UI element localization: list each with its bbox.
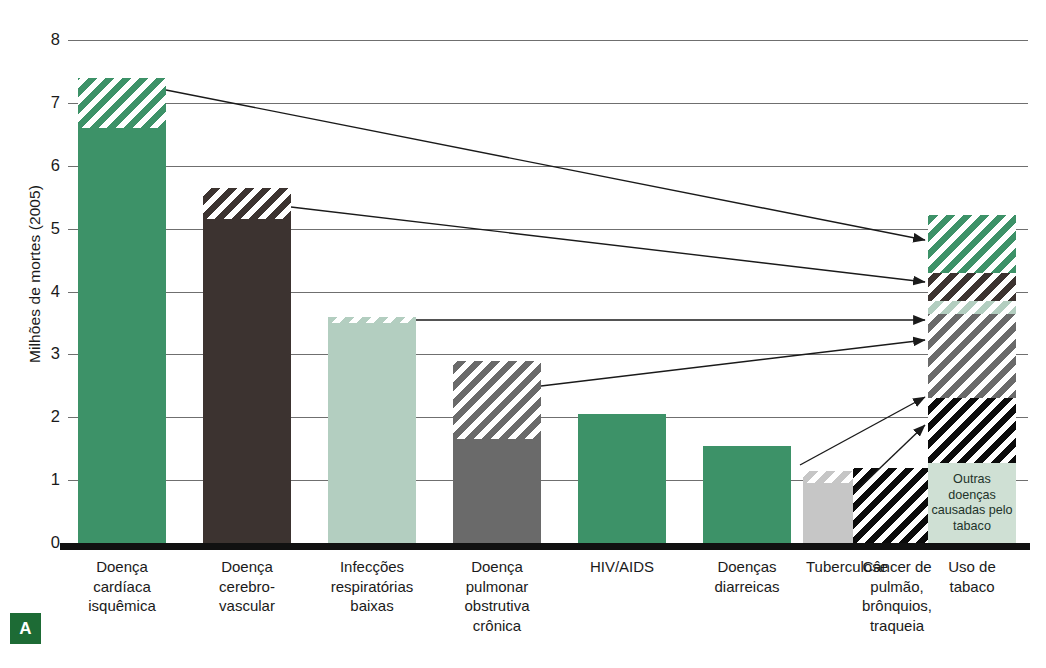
category-label-line: Doença bbox=[177, 557, 317, 577]
category-label-line: respiratórias bbox=[302, 577, 442, 597]
category-label-line: isquêmica bbox=[52, 596, 192, 616]
category-label-line: baixas bbox=[302, 596, 442, 616]
bar-segment-doenca-pulmonar-obstrutiva-cronica-tobacco bbox=[453, 361, 541, 440]
y-tick-label-5: 5 bbox=[34, 220, 60, 236]
bar-segment-doenca-cerebrovascular-tobacco bbox=[203, 188, 291, 219]
chart-root: Milhões de mortes (2005) 012345678 Outra… bbox=[0, 0, 1046, 668]
bar-segment-doenca-cerebrovascular-base bbox=[203, 219, 291, 543]
gridline-8 bbox=[68, 40, 1028, 41]
category-label-line: obstrutiva bbox=[427, 596, 567, 616]
bar-segment-uso-de-tabaco-cerebrovascular bbox=[928, 273, 1016, 301]
y-tick-label-6: 6 bbox=[34, 157, 60, 173]
category-label-line: cardíaca bbox=[52, 577, 192, 597]
category-label-doenca-cerebrovascular: Doençacerebro-vascular bbox=[177, 557, 317, 616]
bar-segment-infeccoes-respiratorias-baixas-base bbox=[328, 323, 416, 543]
panel-letter-badge: A bbox=[10, 613, 41, 644]
category-label-line: crônica bbox=[427, 616, 567, 636]
bar-hiv-aids bbox=[578, 414, 666, 543]
category-label-line: tabaco bbox=[902, 577, 1042, 597]
y-tick-label-8: 8 bbox=[34, 31, 60, 47]
y-tick-label-2: 2 bbox=[34, 408, 60, 424]
bar-segment-uso-de-tabaco-dpoc bbox=[928, 314, 1016, 399]
category-label-line: traqueia bbox=[827, 616, 967, 636]
bar-segment-uso-de-tabaco-infeccoes bbox=[928, 301, 1016, 314]
category-label-uso-de-tabaco: Uso detabaco bbox=[902, 557, 1042, 596]
bar-segment-doenca-cardiaca-isquemica-base bbox=[78, 128, 166, 543]
category-label-hiv-aids: HIV/AIDS bbox=[552, 557, 692, 577]
category-label-line: pulmonar bbox=[427, 577, 567, 597]
category-label-line: cerebro- bbox=[177, 577, 317, 597]
bar-doenca-pulmonar-obstrutiva-cronica bbox=[453, 361, 541, 543]
cropped-header-remnant bbox=[0, 0, 1046, 8]
bar-segment-doencas-diarreicas-base bbox=[703, 446, 791, 543]
bar-segment-uso-de-tabaco-cancer-pulmao bbox=[928, 398, 1016, 463]
category-label-line: HIV/AIDS bbox=[552, 557, 692, 577]
bar-segment-doenca-cardiaca-isquemica-tobacco bbox=[78, 78, 166, 128]
category-label-line: Doença bbox=[427, 557, 567, 577]
bar-segment-uso-de-tabaco-cardiaca bbox=[928, 215, 1016, 273]
gridline-7 bbox=[68, 103, 1028, 104]
bar-segment-doenca-pulmonar-obstrutiva-cronica-base bbox=[453, 439, 541, 543]
bar-segment-infeccoes-respiratorias-baixas-tobacco bbox=[328, 317, 416, 323]
y-tick-label-0: 0 bbox=[34, 534, 60, 550]
bar-doenca-cerebrovascular bbox=[203, 188, 291, 543]
category-label-line: Doença bbox=[52, 557, 192, 577]
bar-doencas-diarreicas bbox=[703, 446, 791, 543]
bar-uso-de-tabaco: Outras doenças causadas pelo tabaco bbox=[928, 215, 1016, 543]
y-tick-label-4: 4 bbox=[34, 283, 60, 299]
category-label-line: Infecções bbox=[302, 557, 442, 577]
category-label-doenca-cardiaca-isquemica: Doençacardíacaisquêmica bbox=[52, 557, 192, 616]
y-tick-label-1: 1 bbox=[34, 471, 60, 487]
category-label-line: Uso de bbox=[902, 557, 1042, 577]
category-label-doenca-pulmonar-obstrutiva-cronica: Doençapulmonarobstrutivacrônica bbox=[427, 557, 567, 635]
bar-segment-uso-de-tabaco-outras-doencas: Outras doenças causadas pelo tabaco bbox=[928, 463, 1016, 543]
bar-infeccoes-respiratorias-baixas bbox=[328, 317, 416, 543]
gridline-6 bbox=[68, 166, 1028, 167]
y-tick-label-7: 7 bbox=[34, 94, 60, 110]
category-label-line: diarreicas bbox=[677, 577, 817, 597]
bar-segment-hiv-aids-base bbox=[578, 414, 666, 543]
category-label-line: vascular bbox=[177, 596, 317, 616]
category-label-line: brônquios, bbox=[827, 596, 967, 616]
in-bar-annotation: Outras doenças causadas pelo tabaco bbox=[928, 472, 1016, 534]
bar-doenca-cardiaca-isquemica bbox=[78, 78, 166, 543]
x-axis-baseline bbox=[60, 543, 1030, 550]
y-tick-label-3: 3 bbox=[34, 345, 60, 361]
plot-area: 012345678 Outras doenças causadas pelo t… bbox=[68, 40, 1028, 543]
category-label-infeccoes-respiratorias-baixas: Infecçõesrespiratóriasbaixas bbox=[302, 557, 442, 616]
